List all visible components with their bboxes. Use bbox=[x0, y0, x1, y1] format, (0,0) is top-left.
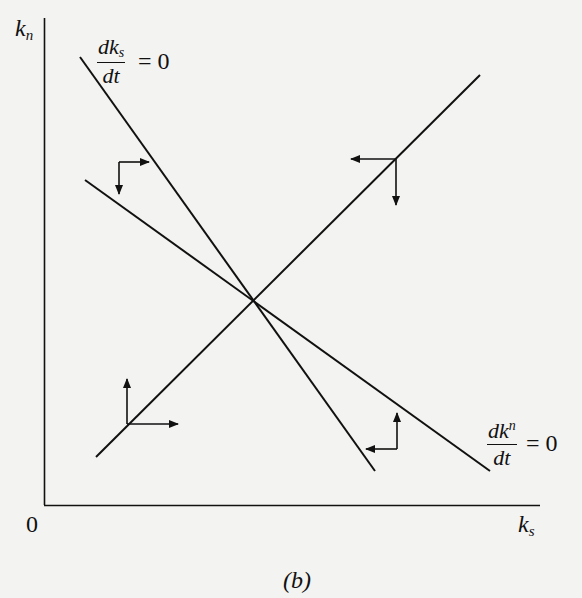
isocline-dks-denominator: dt bbox=[97, 63, 125, 87]
arrow-set-upper-left bbox=[119, 162, 149, 194]
isocline-dks-equals: = 0 bbox=[138, 48, 170, 75]
isocline-dks-label: dks dt bbox=[97, 36, 125, 87]
positive-ray bbox=[96, 75, 480, 457]
x-axis-var: k bbox=[518, 511, 529, 537]
phase-diagram: kn dks dt = 0 dkn dt = 0 0 ks (b) bbox=[0, 0, 582, 598]
num-sub: s bbox=[119, 45, 124, 60]
y-axis-var: k bbox=[15, 15, 26, 41]
isocline-dkn-zero bbox=[85, 180, 490, 471]
arrow-set-lower-right bbox=[366, 413, 397, 449]
num-sub: n bbox=[509, 418, 516, 433]
isocline-dks-zero bbox=[80, 57, 375, 471]
x-axis-sub: s bbox=[529, 523, 535, 539]
isocline-dkn-label: dkn dt bbox=[487, 419, 517, 469]
isocline-dkn-denominator: dt bbox=[487, 445, 517, 469]
y-axis-sub: n bbox=[26, 27, 34, 43]
isocline-dkn-equals: = 0 bbox=[526, 430, 558, 457]
x-axis-label: ks bbox=[518, 512, 535, 539]
y-axis-label: kn bbox=[15, 16, 33, 43]
isocline-dks-numerator: dks bbox=[97, 36, 125, 63]
figure-caption: (b) bbox=[283, 568, 311, 592]
num-var: dk bbox=[98, 34, 119, 59]
origin-label: 0 bbox=[26, 512, 38, 536]
phase-diagram-canvas bbox=[0, 0, 582, 598]
isocline-dkn-numerator: dkn bbox=[487, 419, 517, 445]
num-var: dk bbox=[488, 418, 509, 443]
